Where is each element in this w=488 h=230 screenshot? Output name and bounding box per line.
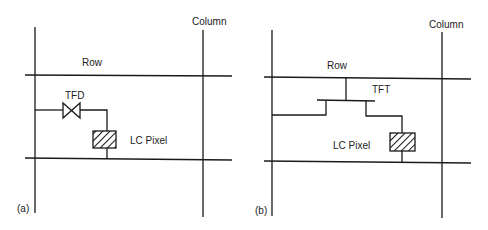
panel-tag: (b) bbox=[255, 205, 267, 216]
pixel-label: LC Pixel bbox=[333, 140, 370, 151]
tfd-output-wire bbox=[80, 110, 107, 131]
device-label: TFT bbox=[372, 84, 390, 95]
panel-a-tfd: Row Column TFD LC Pixel (a) bbox=[17, 16, 232, 217]
tft-source-wire bbox=[272, 101, 326, 115]
diagram-canvas: Row Column TFD LC Pixel (a) Row Column T… bbox=[0, 0, 488, 230]
row-label: Row bbox=[327, 60, 348, 71]
lc-pixel-icon bbox=[390, 133, 415, 151]
panel-tag: (a) bbox=[17, 203, 29, 214]
pixel-label: LC Pixel bbox=[130, 135, 167, 146]
tft-drain-wire bbox=[366, 101, 402, 133]
tfd-diode-icon bbox=[63, 103, 80, 118]
tft-transistor-icon bbox=[317, 78, 375, 101]
lc-pixel-icon bbox=[93, 131, 116, 148]
column-label: Column bbox=[429, 19, 463, 30]
row-line bbox=[25, 75, 232, 76]
device-label: TFD bbox=[65, 90, 84, 101]
lower-row-line bbox=[25, 158, 232, 160]
row-line bbox=[264, 77, 471, 79]
column-label: Column bbox=[192, 16, 226, 27]
row-label: Row bbox=[82, 57, 103, 68]
panel-b-tft: Row Column TFT LC Pixel (b) bbox=[255, 19, 471, 218]
lower-row-line bbox=[264, 161, 471, 163]
